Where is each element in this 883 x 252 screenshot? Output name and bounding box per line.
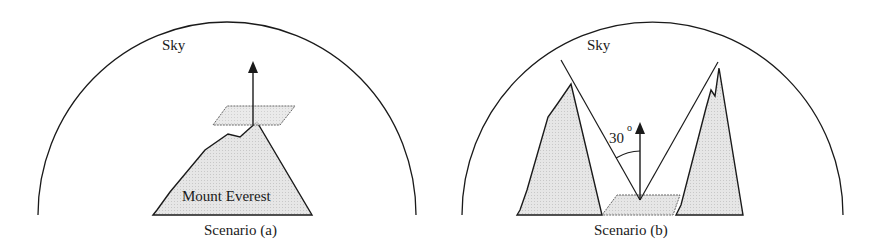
scenario-a-diagram bbox=[38, 22, 416, 215]
caption-scenario-a: Scenario (a) bbox=[204, 223, 277, 238]
arrow-head-a-icon bbox=[248, 61, 258, 73]
summit-plane bbox=[213, 106, 295, 125]
angle-label: 30 bbox=[609, 131, 624, 146]
angle-degree-symbol: o bbox=[627, 123, 632, 133]
right-mountain-shape bbox=[676, 68, 743, 215]
angle-arc bbox=[616, 151, 640, 158]
scenario-b-diagram bbox=[462, 22, 843, 215]
sky-dome-b bbox=[462, 22, 843, 215]
caption-scenario-b: Scenario (b) bbox=[594, 223, 668, 238]
mount-everest-label: Mount Everest bbox=[182, 189, 271, 204]
diagram-canvas bbox=[0, 0, 883, 252]
arrow-head-b-icon bbox=[635, 122, 645, 134]
sky-label-b: Sky bbox=[587, 38, 610, 53]
sky-label-a: Sky bbox=[162, 38, 185, 53]
left-mountain-shape bbox=[517, 84, 602, 215]
